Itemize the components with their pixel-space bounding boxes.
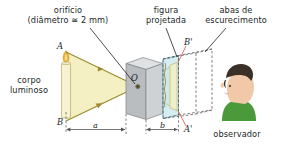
label-orificio: orifício (diâmetro ≅ 2 mm) [22,6,114,26]
projection-screen [163,56,179,119]
label-figura-line1: figura [154,5,179,15]
label-orificio-line2: (diâmetro ≅ 2 mm) [28,15,109,25]
label-abas-line1: abas de [219,5,252,15]
label-figura-projetada: figura projetada [134,6,198,26]
point-label-a: A [57,41,63,51]
point-label-b: B [57,117,63,127]
dimension-label-b: b [160,121,165,130]
label-corpo-luminoso: corpo luminoso [2,76,56,96]
image-credit: Banco de imagens/ Arquivo da editora [294,0,306,30]
label-abas-line2: escurecimento [205,15,267,25]
point-label-b-prime: B' [184,37,192,47]
label-corpo-line2: luminoso [10,85,48,95]
label-abas-escurecimento: abas de escurecimento [194,6,278,26]
dimension-label-a: a [93,121,98,130]
point-label-o: O [131,73,138,83]
observer-figure [221,64,257,121]
pinhole-box [126,58,163,120]
label-orificio-line1: orifício [54,5,82,15]
label-figura-line2: projetada [146,15,186,25]
label-observador: observador [198,130,276,140]
point-label-a-prime: A' [184,124,192,134]
label-corpo-line1: corpo [17,75,41,85]
